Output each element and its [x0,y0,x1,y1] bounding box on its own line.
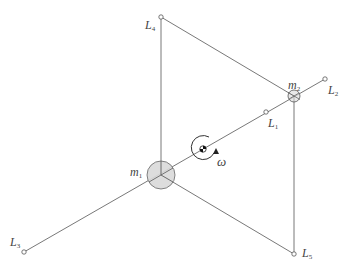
label-l3: L3 [10,236,20,250]
label-omega: ω [217,155,226,168]
label-l4-sub: 4 [152,25,156,33]
label-m2: m2 [288,79,300,93]
anchor-l2 [323,77,327,81]
anchor-l5 [292,252,296,256]
link-m1-l5 [161,175,294,254]
label-l1-base: L [268,116,275,130]
label-l4: L4 [145,19,155,33]
axis-line-l3-l2 [24,79,325,252]
label-l5-base: L [302,246,309,260]
link-l4-m2 [161,17,294,96]
label-l1-sub: 1 [275,123,279,131]
label-m1: m1 [130,166,142,180]
label-l2-sub: 2 [335,90,339,98]
label-m2-sub: 2 [297,85,301,93]
spring-mass-diagram [0,0,348,272]
anchor-l4 [159,15,163,19]
rotation-arrow-icon [191,136,219,160]
anchor-l3 [22,250,26,254]
label-l5-sub: 5 [309,253,313,261]
label-l2: L2 [328,84,338,98]
label-m1-base: m [130,165,139,179]
mass-m1 [147,161,175,189]
label-l2-base: L [328,83,335,97]
label-l5: L5 [302,247,312,261]
label-l4-base: L [145,18,152,32]
anchor-l1 [264,110,268,114]
label-l3-sub: 3 [17,242,21,250]
label-m2-base: m [288,78,297,92]
label-l3-base: L [10,235,17,249]
label-m1-sub: 1 [139,172,143,180]
label-l1: L1 [268,117,278,131]
